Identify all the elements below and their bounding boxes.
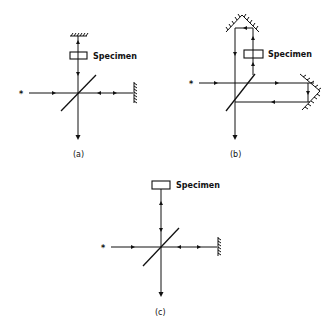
arrow-left-icon — [177, 245, 181, 249]
arrow-left-icon — [243, 26, 247, 30]
caption-a: (a) — [73, 150, 84, 159]
output-arrow-icon — [76, 135, 81, 140]
arrow-right-icon — [113, 91, 117, 95]
output-arrow-icon — [233, 135, 238, 140]
specimen-label: Specimen — [93, 52, 137, 61]
specimen-label: Specimen — [268, 50, 312, 59]
specimen-box — [152, 181, 170, 189]
arrow-down-icon — [306, 91, 310, 95]
arrow-up-icon — [251, 36, 255, 40]
arrow-up-icon — [159, 201, 163, 205]
right-mirror-icon — [134, 82, 137, 103]
arrow-right-icon — [52, 91, 56, 95]
arrow-right-icon — [275, 81, 279, 85]
arrow-down-icon — [159, 228, 163, 232]
source-star-icon: * — [19, 90, 24, 99]
right-roof-mirror-icon — [300, 74, 321, 110]
interferometer-diagram: Specimen * (a) — [0, 0, 334, 323]
top-mirror-icon — [70, 33, 88, 36]
right-mirror-icon — [218, 237, 221, 256]
arrow-left-icon — [271, 100, 275, 104]
arrow-up-icon — [251, 62, 255, 66]
source-star-icon: * — [189, 80, 194, 89]
output-arrow-icon — [159, 292, 164, 297]
arrow-right-icon — [214, 81, 218, 85]
arrow-down-icon — [76, 72, 80, 76]
arrow-right-icon — [131, 245, 135, 249]
arrow-down-icon — [233, 52, 237, 56]
caption-c: (c) — [155, 308, 166, 317]
beamsplitter — [226, 74, 255, 111]
top-roof-mirror-icon — [226, 14, 259, 32]
panel-b: Specimen * (b) — [189, 14, 321, 159]
arrow-right-icon — [197, 245, 201, 249]
specimen-label: Specimen — [176, 181, 220, 190]
arrow-up-icon — [76, 40, 80, 44]
arrow-left-icon — [97, 91, 101, 95]
source-star-icon: * — [101, 244, 106, 253]
caption-b: (b) — [230, 150, 241, 159]
panel-a: Specimen * (a) — [19, 33, 137, 159]
panel-c: Specimen * (c) — [101, 181, 221, 317]
